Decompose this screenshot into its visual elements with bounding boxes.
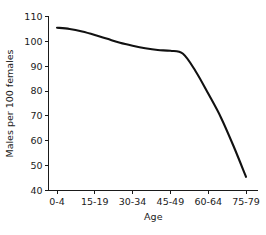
y-axis-ticks (45, 17, 49, 191)
x-axis-tick-label: 75-79 (232, 196, 260, 207)
x-axis-tick-label: 0-4 (49, 196, 65, 207)
x-axis-ticks (57, 191, 246, 195)
x-axis-tick-label: 15-19 (81, 196, 109, 207)
line-chart: 405060708090100110 0-415-1930-3445-4960-… (0, 0, 266, 235)
y-axis-tick-label: 50 (30, 160, 42, 171)
y-axis-tick-label: 100 (24, 36, 42, 47)
x-axis-tick-label: 60-64 (194, 196, 222, 207)
chart-container: 405060708090100110 0-415-1930-3445-4960-… (0, 0, 266, 235)
y-axis-tick-label: 110 (24, 11, 42, 22)
x-axis-title: Age (144, 211, 163, 222)
y-axis-tick-labels: 405060708090100110 (24, 11, 42, 196)
x-axis-tick-labels: 0-415-1930-3445-4960-6475-79 (49, 196, 260, 207)
y-axis-tick-label: 60 (30, 135, 42, 146)
y-axis-tick-label: 40 (30, 185, 42, 196)
x-axis-tick-label: 45-49 (157, 196, 185, 207)
y-axis-tick-label: 70 (30, 110, 42, 121)
y-axis-tick-label: 90 (30, 61, 42, 72)
x-axis-tick-label: 30-34 (119, 196, 147, 207)
sex-ratio-curve (57, 28, 246, 177)
y-axis-title: Males per 100 females (4, 49, 15, 157)
y-axis-tick-label: 80 (30, 85, 42, 96)
